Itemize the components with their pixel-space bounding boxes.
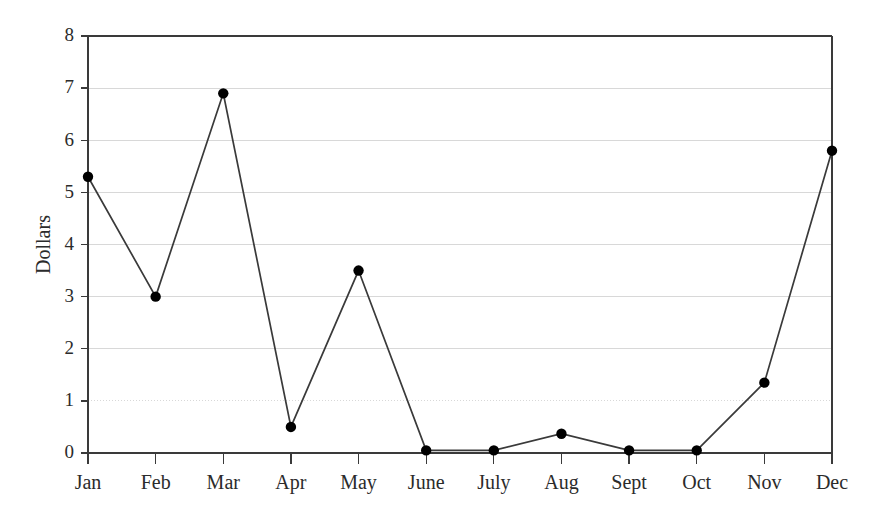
y-tick-label: 6 <box>65 129 75 150</box>
x-tick-label: Sept <box>611 471 647 494</box>
data-point-marker <box>692 445 702 455</box>
data-point-marker <box>556 429 566 439</box>
data-point-marker <box>218 88 228 98</box>
data-point-marker <box>489 445 499 455</box>
y-tick-label: 8 <box>65 24 75 45</box>
x-tick-label: Nov <box>747 471 781 493</box>
y-tick-label: 7 <box>65 76 75 97</box>
x-tick-label: Feb <box>141 471 171 493</box>
x-tick-label: Apr <box>275 471 306 494</box>
y-tick-label: 5 <box>65 181 75 202</box>
y-axis-tick-labels: 012345678 <box>65 24 75 462</box>
x-tick-label: May <box>340 471 377 494</box>
x-tick-label: June <box>408 471 445 493</box>
data-point-marker <box>83 172 93 182</box>
x-tick-label: Mar <box>207 471 241 493</box>
y-tick-label: 1 <box>65 389 75 410</box>
data-point-marker <box>827 145 837 155</box>
data-point-marker <box>624 445 634 455</box>
y-tick-label: 2 <box>65 337 75 358</box>
chart-canvas: 012345678 JanFebMarAprMayJuneJulyAugSept… <box>0 0 878 520</box>
x-tick-label: July <box>477 471 510 494</box>
data-point-marker <box>353 265 363 275</box>
data-point-marker <box>150 291 160 301</box>
x-tick-label: Jan <box>75 471 102 493</box>
data-point-marker <box>286 422 296 432</box>
x-tick-label: Oct <box>682 471 711 493</box>
data-point-marker <box>421 445 431 455</box>
data-point-marker <box>759 377 769 387</box>
y-tick-label: 0 <box>65 441 75 462</box>
line-chart: 012345678 JanFebMarAprMayJuneJulyAugSept… <box>0 0 878 520</box>
y-tick-label: 4 <box>65 233 75 254</box>
x-tick-label: Dec <box>816 471 848 493</box>
y-tick-label: 3 <box>65 285 75 306</box>
y-axis-title: Dollars <box>32 215 54 274</box>
x-tick-label: Aug <box>544 471 578 494</box>
chart-background <box>0 0 878 520</box>
